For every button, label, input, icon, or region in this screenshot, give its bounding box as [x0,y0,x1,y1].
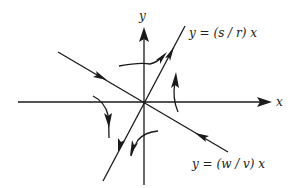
trajectory [119,56,163,66]
unstable-line-label: y = (s / r) x [189,27,257,39]
arrow-icon [165,47,174,61]
stable-line-label: y = (w / v) x [192,158,265,170]
arrow-icon [195,133,209,142]
x-axis-label: x [276,96,283,108]
y-axis-label: y [139,10,146,22]
y-axis [139,27,149,185]
arrow-icon [93,71,107,80]
trajectories [93,52,179,156]
